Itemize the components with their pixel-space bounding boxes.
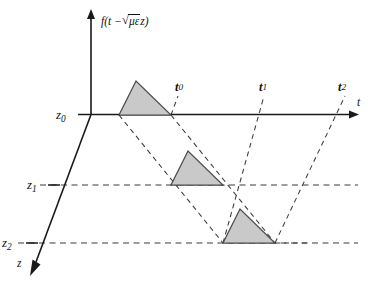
- radicand: με: [128, 14, 140, 27]
- depth-tick-label-z1: z1: [27, 178, 37, 194]
- depth-tick-label-z2: z2: [2, 236, 12, 252]
- pulse-triangle-z1: [171, 151, 223, 185]
- sqrt-group: √με: [122, 14, 140, 27]
- time-marker-leader-t0: [171, 96, 178, 115]
- time-axis-arrowhead: [349, 111, 359, 119]
- time-marker-label-t0: t0: [175, 81, 183, 94]
- amplitude-axis-label-close: ): [145, 15, 149, 27]
- figure-canvas: [0, 0, 373, 290]
- time-marker-t2-sub: 2: [341, 82, 346, 92]
- amplitude-axis-label-minus: −: [114, 15, 122, 27]
- time-axis-name: t: [357, 97, 360, 109]
- depth-tick-z1-sub: 1: [32, 184, 37, 194]
- pulse-triangle-z0: [119, 81, 171, 115]
- amplitude-axis-label-t: t: [108, 15, 111, 27]
- depth-tick-z2-sub: 2: [7, 242, 12, 252]
- amplitude-axis-arrowhead: [87, 9, 95, 19]
- depth-axis-arrowhead: [30, 260, 41, 277]
- time-marker-label-t2: t2: [338, 81, 346, 94]
- depth-axis-line: [36, 115, 91, 263]
- amplitude-axis-label: f(t −√μεz): [101, 14, 149, 27]
- time-marker-leader-t2: [275, 96, 345, 243]
- time-marker-label-t1: t1: [259, 81, 267, 94]
- radical-icon: √: [122, 14, 129, 27]
- depth-tick-label-z0: z0: [56, 108, 66, 124]
- wave-propagation-figure: f(t −√μεz) z0 z1 z2 t0 t1 t2 t z: [0, 0, 373, 290]
- depth-axis-name: z: [17, 258, 21, 270]
- time-marker-t1-sub: 1: [262, 82, 267, 92]
- depth-tick-z0-sub: 0: [61, 114, 66, 124]
- time-marker-t0-sub: 0: [178, 82, 183, 92]
